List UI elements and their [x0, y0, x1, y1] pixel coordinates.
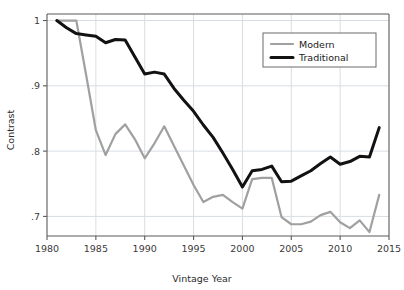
- y-tick-label: .9: [31, 80, 40, 91]
- x-tick-label: 1995: [181, 243, 205, 254]
- chart-container: .7.8.91 19801985199019952000200520102015…: [0, 0, 404, 290]
- x-tick-label: 2015: [377, 243, 401, 254]
- x-tick-label: 2010: [328, 243, 352, 254]
- legend-label-traditional: Traditional: [298, 52, 348, 63]
- y-tick-label: .7: [31, 211, 40, 222]
- y-tick-label: 1: [34, 15, 40, 26]
- legend-label-modern: Modern: [299, 39, 335, 50]
- x-tick-label: 1980: [35, 243, 59, 254]
- x-tick-label: 1985: [84, 243, 108, 254]
- line-chart: .7.8.91 19801985199019952000200520102015…: [0, 0, 404, 290]
- chart-legend: ModernTraditional: [263, 33, 376, 67]
- y-tick-label: .8: [31, 146, 40, 157]
- x-axis-title: Vintage Year: [172, 273, 232, 284]
- y-axis-title: Contrast: [5, 109, 16, 150]
- x-tick-label: 2000: [230, 243, 254, 254]
- x-tick-label: 2005: [279, 243, 303, 254]
- x-tick-label: 1990: [133, 243, 157, 254]
